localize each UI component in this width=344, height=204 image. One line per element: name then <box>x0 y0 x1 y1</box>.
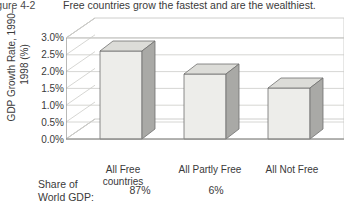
x-category-line1: All Not Free <box>252 164 332 176</box>
plot-region <box>66 14 344 164</box>
y-tick-label: 1.0% <box>41 100 64 111</box>
y-tick-label: 3.0% <box>41 32 64 43</box>
y-tick-label: 0.0% <box>41 134 64 145</box>
chart-3d-canvas <box>66 14 344 164</box>
chart-area: GDP Growth Rate, 1990–1998 (%) 3.0% 2.5%… <box>0 14 344 164</box>
y-tick-label: 0.5% <box>41 117 64 128</box>
footer-share-of-world-gdp: Share of World GDP: 87% 6% <box>0 176 344 204</box>
footer-label: Share of World GDP: <box>38 178 94 203</box>
y-tick-label: 2.5% <box>41 49 64 60</box>
footer-label-line1: Share of <box>38 178 94 191</box>
y-tick-label: 2.0% <box>41 66 64 77</box>
bar-all-partly-free <box>184 64 239 139</box>
footer-value: 87% <box>110 184 170 196</box>
figure-title: Free countries grow the fastest and are … <box>63 0 316 11</box>
footer-label-line2: World GDP: <box>38 191 94 204</box>
figure-header: igure 4-2 Free countries grow the fastes… <box>0 0 344 13</box>
y-axis-tick-labels: 3.0% 2.5% 2.0% 1.5% 1.0% 0.5% 0.0% <box>18 14 64 164</box>
x-category-line1: All Free <box>84 164 162 176</box>
bar-all-not-free <box>268 78 323 139</box>
x-category-label: All Partly Free <box>168 164 252 176</box>
y-tick-label: 1.5% <box>41 83 64 94</box>
bar-all-free-countries <box>100 41 155 139</box>
x-category-line1: All Partly Free <box>168 164 252 176</box>
footer-value: 6% <box>186 184 246 196</box>
x-category-label: All Not Free <box>252 164 332 176</box>
